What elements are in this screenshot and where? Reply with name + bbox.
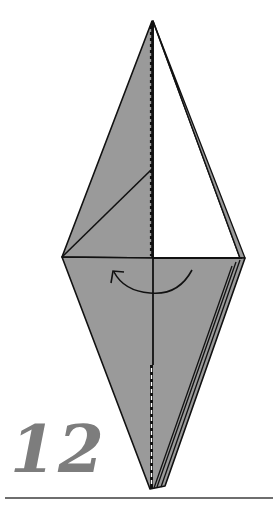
step-number: 12 [10,416,106,482]
baseline-rule [5,497,273,499]
left-upper-flap [62,21,152,258]
